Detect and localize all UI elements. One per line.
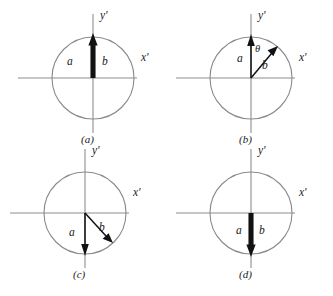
panel-c-y-axis-label: y' — [91, 144, 100, 157]
panel-b-angle-label: θ — [255, 43, 260, 54]
vector-rotation-figure: y' x' a b (a) y' x' a b θ (b) — [0, 0, 333, 296]
panel-d-x-axis-label: x' — [298, 186, 307, 198]
panel-c: y' x' a b (c) — [10, 144, 141, 281]
panel-a: y' x' a b (a) — [18, 9, 149, 146]
panel-b: y' x' a b θ (b) — [176, 9, 307, 146]
panel-d-vector-arrowhead — [246, 245, 255, 258]
panel-b-vector-a-arrowhead — [247, 34, 255, 46]
panel-d-caption: (d) — [239, 268, 252, 281]
figure-canvas: y' x' a b (a) y' x' a b θ (b) — [0, 0, 333, 296]
panel-c-caption: (c) — [73, 268, 86, 281]
panel-a-vector-a-label: a — [67, 55, 73, 67]
panel-b-x-axis-label: x' — [298, 51, 307, 63]
panel-d-vector-a-label: a — [236, 224, 242, 236]
panel-d-vector-b-label: b — [259, 224, 265, 236]
panel-d-y-axis-label: y' — [257, 144, 266, 157]
panel-b-y-axis-label: y' — [257, 9, 266, 22]
panel-a-y-axis-label: y' — [99, 9, 108, 22]
panel-b-caption: (b) — [239, 133, 252, 146]
panel-a-x-axis-label: x' — [140, 51, 149, 63]
panel-a-vector-b-label: b — [102, 55, 108, 67]
panel-c-vector-a-label: a — [69, 226, 75, 238]
panel-b-vector-b-arrowhead — [268, 46, 278, 56]
panel-b-vector-a-label: a — [237, 52, 243, 64]
panel-d: y' x' a b (d) — [176, 144, 307, 281]
panel-c-x-axis-label: x' — [132, 186, 141, 198]
panel-a-vector-arrowhead — [88, 33, 97, 46]
panel-b-vector-b-label: b — [262, 59, 268, 71]
panel-c-vector-b-label: b — [99, 221, 105, 233]
